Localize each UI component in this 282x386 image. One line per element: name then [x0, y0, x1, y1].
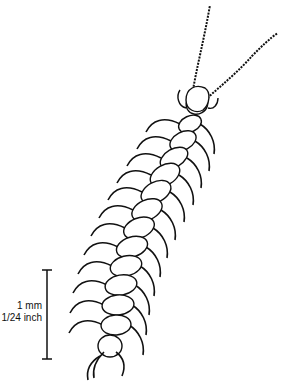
body-segment [104, 272, 139, 297]
antennae [192, 5, 278, 100]
scale-label-metric: 1 mm [17, 300, 42, 312]
leg-right [195, 141, 209, 171]
scale-label-imperial: 1/24 inch [1, 312, 42, 324]
leg-right [153, 228, 167, 258]
leg-left [117, 171, 151, 183]
body-segments [98, 90, 212, 357]
leg-right [179, 175, 193, 205]
leg-right [129, 325, 143, 355]
leg-left [108, 188, 142, 200]
leg-right [135, 285, 149, 315]
leg-left [127, 154, 161, 166]
leg-left [73, 281, 107, 293]
leg-right [187, 158, 201, 188]
centipede-illustration [0, 0, 282, 386]
leg-left [84, 243, 118, 255]
body-segment [101, 293, 135, 316]
leg-right [161, 210, 175, 240]
head [178, 87, 218, 112]
leg-left [137, 137, 171, 149]
leg-right [132, 305, 146, 335]
body-segment [100, 314, 131, 336]
leg-left [91, 224, 125, 236]
leg-left [78, 262, 112, 274]
leg-left [146, 120, 180, 132]
leg-left [69, 321, 103, 333]
scale-bar [42, 270, 52, 359]
antenna-right [205, 33, 278, 100]
antenna-left [192, 5, 210, 96]
leg-right [200, 124, 214, 154]
leg-left [99, 206, 133, 218]
leg-right [170, 192, 184, 222]
leg-left [70, 301, 104, 313]
